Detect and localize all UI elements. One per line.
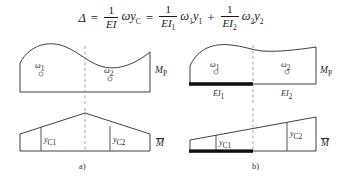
panel-b-bottom-stiff-segment-bar: [189, 149, 253, 152]
panel-b-area-label-1: ω1: [210, 61, 219, 71]
panel-a-bottom-diagram: [20, 108, 150, 151]
panel-a-area-label-2: ω2: [104, 67, 113, 77]
panel-b-ordinate-label-1: yC1: [219, 139, 231, 149]
panel-a-moment-label-Mp: MP: [155, 66, 167, 77]
figure-root: Δ = 1 EI ωyC = 1 EI1 ω1y1 + 1 EI2 ω2y2: [0, 0, 342, 181]
panel-a-area-label-1: ω1: [35, 62, 44, 72]
panel-a-ordinate-label-2: yC2: [113, 136, 125, 146]
panel-b-ordinate-label-2: yC2: [290, 130, 302, 140]
panel-a-moment-label-Mbar: M: [156, 138, 164, 149]
panel-b-moment-label-Mp: MP: [320, 66, 332, 77]
panel-b-stiffness-label-1: EI1: [213, 90, 224, 100]
panel-b-caption: b): [252, 162, 259, 171]
panel-b-top-diagram: [189, 45, 316, 104]
panel-b-stiffness-label-2: EI2: [281, 90, 292, 100]
panel-a-top-diagram: [20, 44, 150, 104]
panel-b-stiff-segment-bar: [189, 82, 253, 86]
panel-b-area-label-2: ω2: [281, 61, 290, 71]
panel-b-moment-label-Mbar: M: [321, 138, 329, 149]
panel-a-caption: a): [79, 162, 86, 171]
panel-a-ordinate-label-1: yC1: [44, 136, 56, 146]
